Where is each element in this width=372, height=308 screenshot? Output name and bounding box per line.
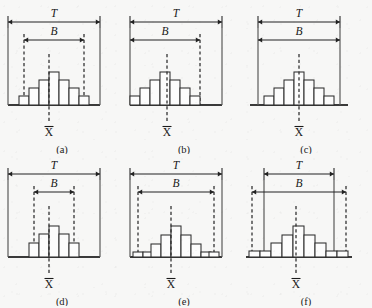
- tolerance-label-e: T: [173, 159, 181, 171]
- tolerance-label-c: T: [296, 7, 304, 19]
- tolerance-arrow-c: [258, 19, 340, 24]
- histogram-bar: [170, 80, 180, 105]
- histogram-bar: [284, 80, 294, 105]
- histogram-bar: [130, 96, 140, 105]
- histogram-bar: [171, 226, 181, 257]
- histogram-bar: [49, 72, 59, 105]
- histogram-bar: [181, 235, 191, 257]
- spread-arrow-b: [130, 37, 200, 42]
- histogram-bar: [337, 251, 348, 257]
- histogram-bar: [150, 80, 160, 105]
- histogram-bar: [69, 88, 79, 105]
- figure-panel-grid: TBX(a)TBX(b)TBX(c)TBX(d)TBX(e)TBX(f): [0, 0, 372, 308]
- histogram-bar: [314, 88, 324, 105]
- spread-label-a: B: [50, 25, 57, 37]
- mean-label-d: X: [45, 278, 54, 290]
- histogram-bar: [160, 72, 170, 105]
- histogram-bar: [39, 234, 49, 257]
- histogram-bar: [151, 244, 161, 257]
- histogram-panel-e: TBX(e): [122, 152, 246, 306]
- histogram-panel-d: TBX(d): [0, 152, 124, 306]
- spread-arrow-f: [252, 189, 346, 194]
- mean-label-e: X: [167, 278, 176, 290]
- mean-label-c: X: [295, 126, 304, 138]
- spread-label-d: B: [50, 177, 57, 189]
- histogram-bar: [271, 243, 282, 257]
- histogram-bar: [304, 235, 315, 257]
- histogram-bar: [29, 243, 39, 257]
- histogram-bars-b: [130, 72, 200, 105]
- histogram-bar: [293, 226, 304, 257]
- histogram-bar: [49, 226, 59, 257]
- histogram-panel-a: TBX(a): [0, 0, 124, 154]
- spread-label-f: B: [295, 177, 302, 189]
- histogram-bar: [294, 72, 304, 105]
- spread-arrow-d: [34, 189, 74, 194]
- tolerance-arrow-a: [8, 19, 100, 24]
- spread-label-e: B: [172, 177, 179, 189]
- mean-label-b: X: [163, 126, 172, 138]
- histogram-bar: [190, 96, 200, 105]
- histogram-bar: [133, 252, 143, 257]
- tolerance-arrow-f: [264, 171, 334, 176]
- histogram-bar: [140, 88, 150, 105]
- tolerance-arrow-d: [8, 171, 100, 176]
- histogram-bars-d: [29, 226, 79, 257]
- mean-label-f: X: [292, 278, 301, 290]
- histogram-panel-b: TBX(b): [122, 0, 246, 154]
- histogram-bar: [315, 243, 326, 257]
- spread-arrow-a: [24, 37, 84, 42]
- tolerance-arrow-e: [130, 171, 222, 176]
- histogram-bar: [59, 234, 69, 257]
- histogram-bar: [69, 243, 79, 257]
- histogram-bar: [191, 244, 201, 257]
- tolerance-label-a: T: [51, 7, 59, 19]
- tolerance-arrow-b: [130, 19, 222, 24]
- histogram-bar: [180, 88, 190, 105]
- histogram-bars-e: [133, 226, 219, 257]
- histogram-bars-c: [264, 72, 334, 105]
- panel-caption-e: (e): [178, 296, 190, 306]
- histogram-bar: [39, 80, 49, 105]
- histogram-panel-f: TBX(f): [244, 152, 368, 306]
- histogram-bar: [59, 80, 69, 105]
- spread-arrow-e: [138, 189, 214, 194]
- panel-caption-d: (d): [56, 296, 69, 306]
- histogram-bar: [249, 251, 260, 257]
- histogram-panel-c: TBX(c): [244, 0, 368, 154]
- histogram-bar: [161, 235, 171, 257]
- mean-label-a: X: [45, 126, 54, 138]
- spread-label-b: B: [161, 25, 168, 37]
- tolerance-label-d: T: [51, 159, 59, 171]
- histogram-bar: [264, 96, 274, 105]
- histogram-bar: [29, 88, 39, 105]
- tolerance-label-b: T: [173, 7, 181, 19]
- histogram-bar: [274, 88, 284, 105]
- histogram-bars-a: [19, 72, 89, 105]
- histogram-bar: [282, 235, 293, 257]
- spread-arrow-c: [258, 37, 340, 42]
- histogram-bar: [324, 96, 334, 105]
- histogram-bar: [79, 96, 89, 105]
- histogram-bar: [260, 251, 271, 257]
- panel-caption-f: (f): [301, 296, 312, 306]
- tolerance-label-f: T: [296, 159, 304, 171]
- histogram-bar: [19, 96, 29, 105]
- histogram-bar: [304, 80, 314, 105]
- spread-label-c: B: [295, 25, 302, 37]
- histogram-bar: [209, 252, 219, 257]
- histogram-bar: [326, 251, 337, 257]
